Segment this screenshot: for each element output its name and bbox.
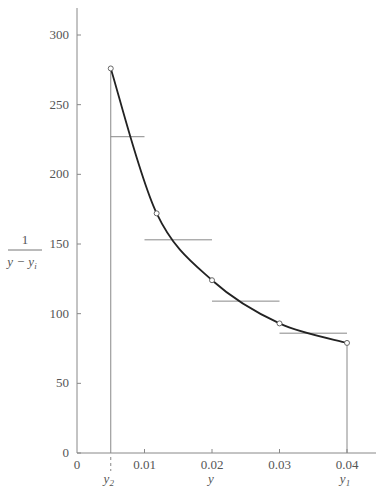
annotation-y1: y1 — [338, 471, 350, 488]
y-tick-label: 200 — [50, 166, 70, 181]
data-point-marker — [154, 211, 159, 216]
curve-series — [111, 68, 347, 342]
y-tick-label: 50 — [56, 375, 69, 390]
annotation-y2: y2 — [102, 471, 115, 488]
y-label-denominator-sub: i — [34, 261, 37, 271]
y-tick-label: 0 — [63, 445, 70, 460]
y-tick-label: 250 — [50, 97, 70, 112]
y-tick-label: 300 — [50, 27, 70, 42]
y-tick-label: 100 — [50, 306, 70, 321]
vertical-bounds — [111, 68, 347, 453]
y-axis-label: 1 y − yi — [5, 232, 42, 271]
data-point-marker — [345, 340, 350, 345]
y-tick-label: 150 — [50, 236, 70, 251]
x-tick-label: 0 — [74, 457, 81, 472]
curve-line — [111, 68, 347, 342]
data-markers — [108, 66, 349, 345]
x-tick-label: 0.03 — [268, 457, 291, 472]
axis-labels: 1 y − yi y — [5, 232, 214, 486]
axes: 05010015020025030000.010.020.030.04y2y1 — [50, 8, 377, 488]
data-point-marker — [108, 66, 113, 71]
y-label-denominator: y − y — [5, 254, 34, 269]
y-label-numerator: 1 — [22, 232, 29, 247]
data-point-marker — [277, 321, 282, 326]
x-tick-label: 0.04 — [336, 457, 359, 472]
step-segments — [111, 137, 347, 333]
x-axis-label: y — [206, 471, 214, 486]
x-tick-label: 0.01 — [133, 457, 156, 472]
x-tick-label: 0.02 — [201, 457, 224, 472]
data-point-marker — [210, 278, 215, 283]
chart: 05010015020025030000.010.020.030.04y2y1 … — [0, 0, 382, 490]
svg-text:y − yi: y − yi — [5, 254, 37, 271]
